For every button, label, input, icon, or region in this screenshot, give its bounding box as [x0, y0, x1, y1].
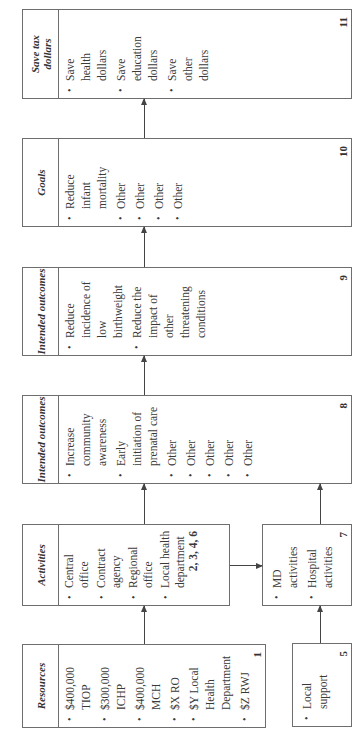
outcome-item: Other — [221, 400, 237, 477]
goal-item: Other — [170, 155, 186, 220]
goals-header: Goals — [23, 139, 59, 226]
activities-item: Contract agency — [94, 529, 124, 599]
save-item: Save education dollars — [113, 34, 161, 92]
md-hospital-box: MD activities Hospital activities 7 — [262, 524, 352, 606]
resources-item: $Y Local Health Department — [186, 649, 234, 721]
outcome-item: Reduce the impact of other threatening c… — [129, 278, 209, 349]
arrow-outcomes-9-to-goals — [144, 227, 145, 267]
goal-item: Reduce infant mortality — [62, 155, 110, 220]
box-number: 1 — [251, 652, 263, 658]
arrow-goals-to-save-tax — [144, 99, 145, 138]
save-item: Save health dollars — [62, 34, 110, 92]
resources-item: $Z RWJ — [237, 649, 253, 721]
goal-item: Other — [151, 155, 167, 220]
activities-item: Central office — [62, 529, 92, 599]
box-number: 10 — [337, 146, 349, 157]
logic-model-diagram: Resources $400,000 TIOP $300,000 ICHP $4… — [0, 0, 362, 732]
goal-item: Other — [113, 155, 129, 220]
goal-item: Other — [132, 155, 148, 220]
activities-item: Regional office — [126, 529, 156, 599]
outcome-item: Other — [240, 400, 256, 477]
arrow-activities-to-md — [230, 565, 262, 566]
resources-box: Resources $400,000 TIOP $300,000 ICHP $4… — [22, 644, 266, 728]
resources-item: $400,000 MCH — [132, 649, 164, 721]
arrow-resources-to-activities — [144, 606, 145, 644]
resources-item: $X RO — [167, 649, 183, 721]
outcome-item: Other — [202, 400, 218, 477]
arrow-activities-to-outcomes-8 — [144, 484, 145, 524]
box-number: 2, 3, 4, 6 — [186, 529, 201, 599]
arrow-local-support-to-md — [320, 606, 321, 643]
intended-outcomes-9-box: Intended outcomes Reduce incidence of lo… — [22, 267, 352, 356]
local-support-item: Local support — [299, 648, 331, 720]
goals-box: Goals Reduce infant mortality Other Othe… — [22, 138, 352, 227]
resources-header: Resources — [23, 645, 59, 727]
outcome-item: Other — [183, 400, 199, 477]
box-number: 7 — [337, 532, 349, 538]
intended-outcomes-8-box: Intended outcomes Increase community awa… — [22, 395, 352, 484]
outcome-item: Other — [164, 400, 180, 477]
outcome-item: Early initiation of prenatal care — [113, 400, 161, 477]
activities-box: Activities Central office Contract agenc… — [22, 524, 230, 606]
outcome-item: Increase community awareness — [62, 400, 110, 477]
intended-outcomes-8-header: Intended outcomes — [23, 396, 59, 483]
box-number: 8 — [337, 403, 349, 409]
arrow-md-to-outcomes-8 — [320, 484, 321, 524]
save-tax-dollars-box: Save tax dollars Save health dollars Sav… — [22, 9, 352, 99]
activities-header: Activities — [23, 525, 59, 605]
md-hospital-item: Hospital activities — [304, 529, 336, 599]
resources-item: $400,000 TIOP — [62, 649, 94, 721]
activities-item: Local health department — [158, 529, 188, 599]
box-number: 5 — [337, 651, 349, 657]
save-tax-dollars-header: Save tax dollars — [23, 10, 59, 98]
resources-item: $300,000 ICHP — [97, 649, 129, 721]
box-number: 11 — [337, 17, 349, 27]
md-hospital-item: MD activities — [269, 529, 301, 599]
local-support-box: Local support 5 — [292, 643, 352, 727]
intended-outcomes-9-header: Intended outcomes — [23, 268, 59, 355]
outcome-item: Reduce incidence of low birthweight — [62, 278, 126, 349]
arrow-outcomes-8-to-outcomes-9 — [144, 356, 145, 395]
box-number: 9 — [337, 275, 349, 281]
save-item: Save other dollars — [164, 34, 212, 92]
